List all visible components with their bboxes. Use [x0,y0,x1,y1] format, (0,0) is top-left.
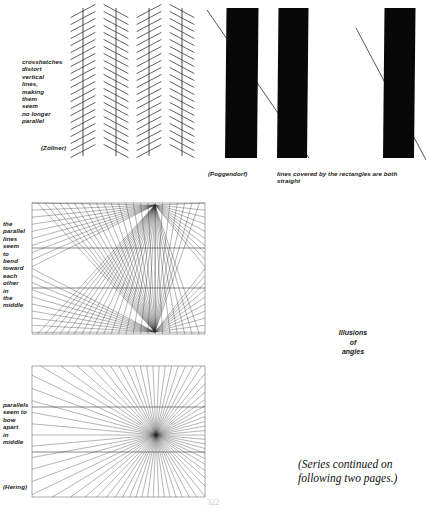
poggendorf-svg [200,0,426,175]
wundt-caption: the parallel lines seem to bend toward e… [3,220,33,309]
poggendorf-figure [200,0,426,175]
poggendorf-caption: lines covered by the rectangles are both… [277,170,426,185]
poggendorf-attribution: (Poggendorf) [208,170,278,177]
page-number: 322 [193,498,233,507]
zollner-attribution: (Zöllner) [41,144,97,151]
hering-attribution: (Hering) [3,483,43,490]
section-title: Illusions of angles [303,328,403,357]
hering-caption: parallels seem to bow apart in middle [3,401,37,445]
continuation-note: (Series continued on following two pages… [298,457,426,485]
illusions-page: crosshatches distort vertical lines, mak… [0,0,426,508]
zollner-caption: crosshatches distort vertical lines, mak… [22,58,78,125]
